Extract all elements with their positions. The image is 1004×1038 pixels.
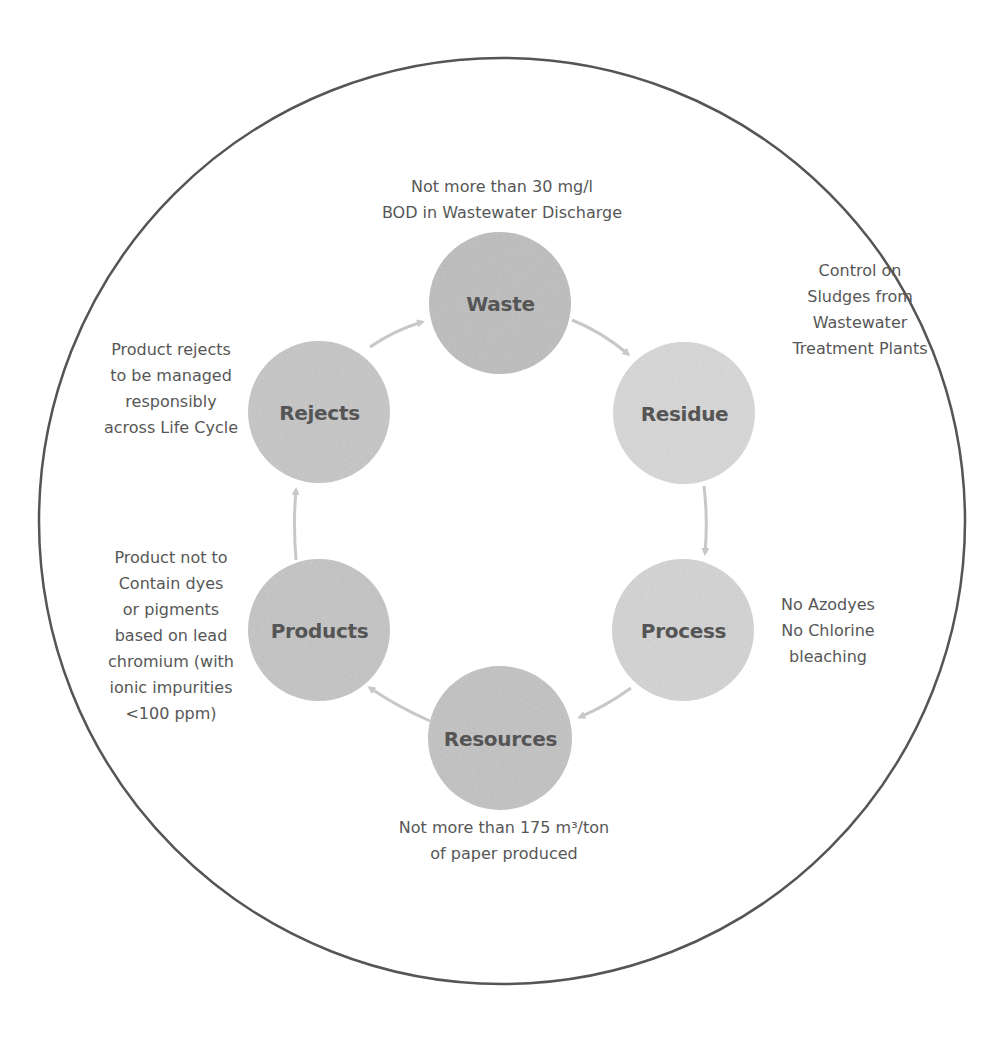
note-resources: Not more than 175 m³/ton of paper produc… [360, 815, 648, 867]
node-resources: Resources [429, 667, 572, 810]
arrow-rejects-to-waste [370, 322, 422, 347]
node-label-products: Products [271, 619, 369, 643]
note-residue: Control on Sludges from Wastewater Treat… [760, 258, 960, 362]
arrow-products-to-rejects [295, 490, 297, 560]
note-products: Product not to Contain dyes or pigments … [96, 545, 246, 727]
cycle-diagram [0, 0, 1004, 1038]
node-label-residue: Residue [641, 402, 729, 426]
node-label-resources: Resources [444, 727, 557, 751]
node-label-process: Process [641, 619, 726, 643]
note-process: No Azodyes No Chlorine bleaching [758, 592, 898, 670]
node-waste: Waste [429, 232, 572, 375]
note-waste: Not more than 30 mg/l BOD in Wastewater … [360, 174, 644, 226]
node-process: Process [612, 559, 755, 702]
node-products: Products [248, 559, 391, 702]
node-label-rejects: Rejects [279, 401, 360, 425]
arrow-residue-to-process [704, 486, 706, 553]
arrow-process-to-resources [580, 688, 631, 717]
node-rejects: Rejects [248, 341, 391, 484]
node-label-waste: Waste [466, 292, 534, 316]
arrow-waste-to-residue [572, 320, 628, 354]
node-residue: Residue [613, 342, 756, 485]
note-rejects: Product rejects to be managed responsibl… [94, 337, 248, 441]
arrow-resources-to-products [370, 688, 430, 721]
